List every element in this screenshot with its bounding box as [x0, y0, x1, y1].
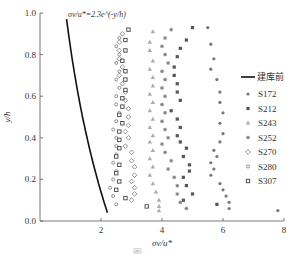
chart-plot: 0.00.20.40.60.81.02468σv/u*y/h 建库前S172S2…	[0, 0, 295, 254]
svg-text:S172: S172	[258, 89, 277, 99]
svg-text:S307: S307	[258, 176, 277, 186]
legend-item-s270: S270	[246, 147, 277, 157]
y-tick-label: 0.8	[25, 50, 37, 60]
x-tick-label: 8	[282, 225, 287, 235]
legend-item-s243: S243	[246, 118, 277, 128]
x-tick-label: 6	[221, 225, 226, 235]
equation-annotation: σv/u*=2.3e^(-y/h)	[68, 10, 126, 19]
y-tick-label: 0.0	[25, 216, 37, 226]
legend-item-s172: S172	[246, 89, 276, 99]
legend: 建库前S172S212S243S252S270S280S307	[241, 71, 284, 186]
svg-text:S243: S243	[258, 118, 277, 128]
svg-text:建库前: 建库前	[257, 71, 284, 82]
reference-curve	[67, 19, 108, 213]
y-tick-label: 0.6	[25, 91, 37, 101]
y-axis-label: y/h	[2, 111, 12, 123]
legend-item-s212: S212	[246, 104, 276, 114]
legend-item-s252: S252	[246, 133, 277, 143]
legend-item-curve: 建库前	[241, 71, 284, 82]
legend-item-s307: S307	[246, 176, 277, 186]
legend-item-s280: S280	[247, 162, 278, 172]
data-points	[109, 26, 280, 212]
y-tick-label: 1.0	[25, 8, 37, 18]
series-s252	[160, 28, 188, 211]
svg-text:S212: S212	[258, 104, 277, 114]
axes: 0.00.20.40.60.81.02468σv/u*y/h	[2, 8, 287, 248]
svg-text:S280: S280	[258, 162, 277, 172]
svg-text:S270: S270	[258, 147, 277, 157]
y-tick-label: 0.4	[25, 133, 37, 143]
series-s212	[170, 26, 219, 206]
svg-text:S252: S252	[258, 133, 277, 143]
series-s243	[148, 29, 162, 212]
y-tick-label: 0.2	[25, 174, 36, 184]
x-tick-label: 4	[160, 225, 165, 235]
figure-caption: 图 ……	[0, 246, 295, 254]
x-tick-label: 2	[99, 225, 104, 235]
